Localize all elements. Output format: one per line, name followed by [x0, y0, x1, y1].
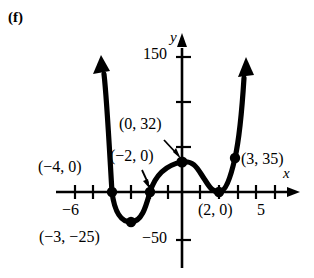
x-tick-label-5: 5	[257, 202, 265, 218]
point-label-minus4-0: (−4, 0)	[38, 159, 82, 175]
point-marker	[145, 187, 155, 197]
y-axis-label: y	[170, 30, 177, 45]
point-label-2-0: (2, 0)	[198, 202, 233, 218]
y-tick-label-neg50: −50	[142, 230, 167, 246]
figure-container: (f)	[0, 0, 314, 278]
point-label-3-35: (3, 35)	[241, 151, 284, 167]
point-label-minus3-minus25: (−3, −25)	[39, 229, 100, 245]
point-marker	[230, 153, 240, 163]
point-marker	[214, 187, 224, 197]
x-axis-label: x	[283, 166, 290, 181]
point-marker	[126, 217, 136, 227]
polynomial-curve	[93, 55, 254, 222]
x-tick-label-neg6: −6	[62, 202, 79, 218]
y-axis-ticks	[176, 57, 191, 240]
point-marker	[176, 156, 187, 167]
x-axis	[56, 185, 300, 199]
point-label-0-32: (0, 32)	[119, 116, 162, 132]
point-marker	[107, 187, 117, 197]
y-axis	[176, 33, 191, 268]
point-label-minus2-0: (−2, 0)	[110, 148, 154, 164]
y-tick-label-150: 150	[143, 46, 167, 62]
